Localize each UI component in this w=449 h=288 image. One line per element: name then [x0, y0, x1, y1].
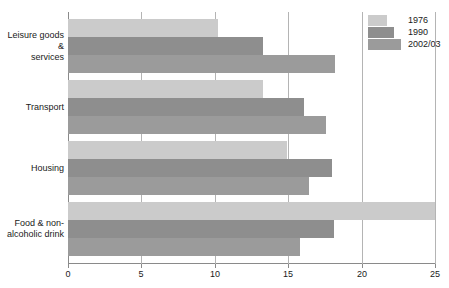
legend-label: 1976	[408, 14, 428, 26]
category-label: Housing	[0, 163, 64, 174]
bar	[68, 238, 300, 256]
gridline-20	[362, 12, 363, 264]
bar	[68, 202, 435, 220]
category-label: Food & non-alcoholic drink	[0, 218, 64, 240]
bar	[68, 116, 326, 134]
x-tick-label: 10	[210, 269, 220, 279]
tick-mark-5	[141, 264, 142, 268]
legend-label: 1990	[408, 26, 428, 38]
legend-label: 2002/03	[408, 38, 441, 50]
tick-mark-0	[68, 264, 69, 268]
bar	[68, 37, 263, 55]
category-label: Transport	[0, 102, 64, 113]
category-label-line: Transport	[0, 102, 64, 113]
bar	[68, 177, 309, 195]
legend: 197619902002/03	[368, 14, 446, 54]
legend-entry: 2002/03	[368, 38, 446, 50]
legend-entry: 1990	[368, 26, 446, 38]
category-label-line: alcoholic drink	[0, 229, 64, 240]
category-label: Leisure goods &services	[0, 30, 64, 63]
legend-entry: 1976	[368, 14, 446, 26]
bar	[68, 98, 304, 116]
x-tick-label: 20	[357, 269, 367, 279]
x-tick-label: 25	[430, 269, 440, 279]
category-label-line: Leisure goods &	[0, 30, 64, 52]
bar	[68, 220, 334, 238]
x-tick-label: 5	[138, 269, 143, 279]
category-label-line: Food & non-	[0, 218, 64, 229]
bar	[68, 141, 287, 159]
bar	[68, 55, 335, 73]
tick-mark-20	[362, 264, 363, 268]
x-tick-label: 0	[65, 269, 70, 279]
x-axis-line	[68, 263, 436, 264]
tick-mark-15	[288, 264, 289, 268]
legend-swatch	[368, 39, 401, 50]
bar-chart: 0510152025 Leisure goods &servicesTransp…	[0, 0, 449, 288]
legend-swatch	[368, 27, 394, 38]
bar	[68, 80, 263, 98]
bar	[68, 159, 332, 177]
tick-mark-25	[435, 264, 436, 268]
bar	[68, 19, 218, 37]
x-tick-label: 15	[283, 269, 293, 279]
tick-mark-10	[215, 264, 216, 268]
legend-swatch	[368, 15, 387, 26]
category-label-line: services	[0, 52, 64, 63]
category-label-line: Housing	[0, 163, 64, 174]
